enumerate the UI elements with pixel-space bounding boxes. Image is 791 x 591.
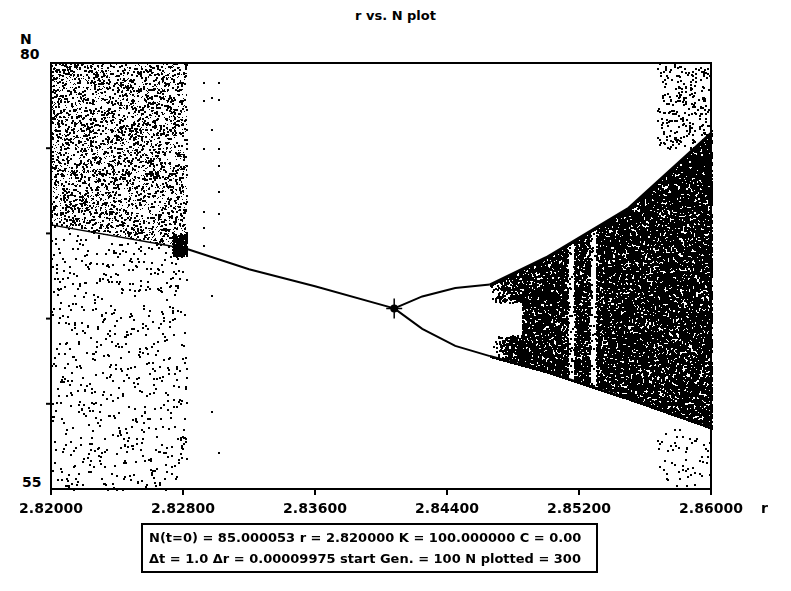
bifurcation-plot xyxy=(0,0,791,591)
parameters-line-1: N(t=0) = 85.000053 r = 2.820000 K = 100.… xyxy=(149,527,590,548)
x-tick-label: 2.82000 xyxy=(19,500,83,516)
x-tick-label: 2.84400 xyxy=(415,500,479,516)
x-tick-label: 2.82800 xyxy=(151,500,215,516)
x-axis-label: r xyxy=(761,500,768,516)
parameters-line-2: Δt = 1.0 Δr = 0.00009975 start Gen. = 10… xyxy=(149,548,590,569)
x-tick-label: 2.86000 xyxy=(679,500,743,516)
parameters-box: N(t=0) = 85.000053 r = 2.820000 K = 100.… xyxy=(141,523,598,573)
x-tick-label: 2.83600 xyxy=(283,500,347,516)
x-tick-label: 2.85200 xyxy=(547,500,611,516)
